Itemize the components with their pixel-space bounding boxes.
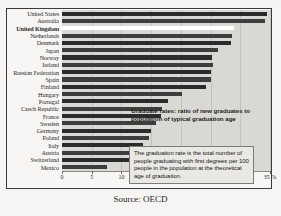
source-label: Source: OECD: [0, 194, 281, 204]
category-label: Italy: [8, 142, 62, 149]
bar: [62, 55, 212, 59]
chart-caption-annotation: Graduate rates: ratio of new graduates t…: [131, 107, 251, 123]
bar-row: [62, 25, 270, 32]
category-label: Australia: [8, 17, 62, 24]
bar: [62, 99, 168, 103]
bar-row: [62, 76, 270, 83]
category-label: Russian Federation: [8, 69, 62, 76]
category-label: Spain: [8, 76, 62, 83]
category-label: Norway: [8, 54, 62, 61]
bar: [62, 41, 231, 45]
axis-tick-label: 10: [118, 174, 124, 180]
category-label: Netherlands: [8, 32, 62, 39]
category-label: Ireland: [8, 61, 62, 68]
axis-tick-label: 35 %: [264, 174, 277, 180]
bar-row: [62, 61, 270, 68]
bar: [62, 34, 232, 38]
category-axis-labels: United StatesAustraliaUnited KingdomNeth…: [8, 10, 62, 171]
category-label: Mexico: [8, 164, 62, 171]
category-label: Austria: [8, 149, 62, 156]
bar-row: [62, 98, 270, 105]
category-label: Switzerland: [8, 156, 62, 163]
axis-tick-label: 5: [90, 174, 93, 180]
bar: [62, 12, 267, 16]
bar: [62, 77, 211, 81]
gridline: [270, 10, 271, 171]
bar-row: [62, 39, 270, 46]
bar: [62, 48, 218, 52]
bar: [62, 63, 213, 67]
category-label: Japan: [8, 47, 62, 54]
bar: [62, 136, 149, 140]
bar-row: [62, 134, 270, 141]
category-label: Hungary: [8, 90, 62, 97]
category-label: Poland: [8, 134, 62, 141]
bar: [62, 129, 151, 133]
bar-row: [62, 127, 270, 134]
bar: [62, 26, 234, 30]
bar-row: [62, 83, 270, 90]
clipped-title: [0, 0, 281, 7]
bar: [62, 92, 182, 96]
axis-tick-label: 0: [61, 174, 64, 180]
bar-row: [62, 47, 270, 54]
category-label: Portugal: [8, 98, 62, 105]
chart-figure: United StatesAustraliaUnited KingdomNeth…: [0, 0, 281, 216]
bar: [62, 158, 135, 162]
bar: [62, 70, 211, 74]
bar-row: [62, 10, 270, 17]
bar-row: [62, 54, 270, 61]
category-label: Czech Republic: [8, 105, 62, 112]
category-label: United Kingdom: [8, 25, 62, 32]
bar: [62, 165, 107, 169]
definition-note-box: The graduation rate is the total number …: [129, 146, 254, 184]
category-label: United States: [8, 10, 62, 17]
bar-row: [62, 69, 270, 76]
category-label: Germany: [8, 127, 62, 134]
bar: [62, 19, 265, 23]
category-label: Sweden: [8, 120, 62, 127]
category-label: France: [8, 112, 62, 119]
bar-row: [62, 90, 270, 97]
category-label: Denmark: [8, 39, 62, 46]
category-label: Finland: [8, 83, 62, 90]
bar-row: [62, 17, 270, 24]
bar: [62, 85, 206, 89]
bar-row: [62, 32, 270, 39]
